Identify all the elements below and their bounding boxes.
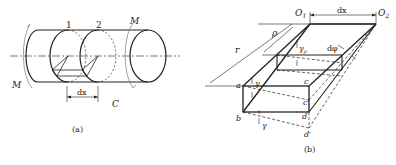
- svg-text:dx: dx: [77, 88, 87, 97]
- svg-text:γ: γ: [255, 79, 260, 88]
- svg-text:O2: O2: [378, 8, 389, 19]
- svg-text:1: 1: [66, 20, 72, 30]
- figure-a-caption: (a): [72, 125, 83, 134]
- svg-text:M: M: [129, 16, 140, 26]
- svg-text:dx: dx: [337, 6, 347, 15]
- figure-a-shaft: [10, 22, 180, 102]
- svg-text:d: d: [302, 112, 307, 121]
- svg-text:b: b: [236, 114, 241, 123]
- svg-text:C: C: [112, 99, 119, 109]
- figure-b-element: [205, 12, 376, 128]
- svg-text:γρ: γρ: [299, 44, 307, 55]
- svg-text:c′: c′: [303, 98, 309, 107]
- svg-text:ρ: ρ: [271, 28, 278, 38]
- svg-text:c: c: [304, 77, 309, 86]
- svg-text:dφ: dφ: [327, 44, 338, 53]
- rho-dimension: [264, 27, 293, 52]
- figure-b-labels: O1 dx O2 r ρ γρ dφ a γ c c′ b d γ d′ (b): [235, 6, 389, 154]
- svg-text:O1: O1: [295, 8, 306, 19]
- figure-b-caption: (b): [304, 145, 315, 154]
- svg-text:r: r: [235, 45, 240, 55]
- svg-text:d′: d′: [304, 130, 311, 139]
- svg-text:γ: γ: [262, 121, 267, 130]
- svg-text:2: 2: [96, 20, 102, 30]
- r-dimension: [210, 24, 292, 83]
- torsion-diagram: 1 2 M M dx C (a): [0, 0, 396, 165]
- svg-text:M: M: [11, 80, 22, 90]
- svg-text:a: a: [236, 81, 241, 90]
